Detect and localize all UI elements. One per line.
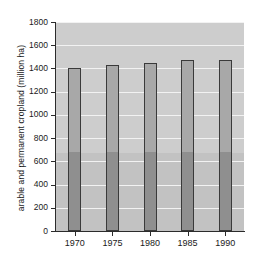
y-tick-mark [51, 208, 55, 209]
bar-lower-segment [182, 152, 193, 230]
plot-area [56, 22, 244, 231]
gridline [56, 45, 244, 46]
x-tick-label: 1980 [130, 238, 170, 248]
gridline [56, 22, 244, 23]
x-tick-label: 1990 [205, 238, 245, 248]
y-axis-title: arable and permanent cropland (million h… [14, 12, 28, 244]
bar [219, 60, 232, 231]
x-tick-mark [188, 232, 189, 236]
y-tick-mark [51, 22, 55, 23]
y-tick-label: 1000 [29, 110, 48, 119]
y-tick-mark [51, 231, 55, 232]
bar-lower-segment [220, 152, 231, 230]
y-tick-label: 1800 [29, 18, 48, 27]
x-tick-mark [112, 232, 113, 236]
y-tick-mark [51, 161, 55, 162]
x-tick-label: 1975 [92, 238, 132, 248]
y-tick-label: 0 [43, 227, 48, 236]
x-tick-label: 1970 [55, 238, 95, 248]
y-tick-mark [51, 68, 55, 69]
x-tick-label: 1985 [168, 238, 208, 248]
bar [144, 63, 157, 231]
y-tick-mark [51, 92, 55, 93]
y-tick-label: 600 [34, 157, 48, 166]
x-tick-mark [225, 232, 226, 236]
bar-lower-segment [69, 152, 80, 230]
y-tick-label: 1400 [29, 64, 48, 73]
y-tick-mark [51, 45, 55, 46]
y-tick-mark [51, 115, 55, 116]
x-tick-mark [75, 232, 76, 236]
bar-lower-segment [107, 152, 118, 230]
y-tick-label: 800 [34, 134, 48, 143]
y-tick-mark [51, 185, 55, 186]
bar [106, 65, 119, 231]
bar [68, 68, 81, 231]
chart-figure: arable and permanent cropland (million h… [0, 0, 259, 256]
y-tick-label: 200 [34, 203, 48, 212]
y-tick-label: 1200 [29, 87, 48, 96]
bar [181, 60, 194, 231]
y-tick-label: 400 [34, 180, 48, 189]
x-tick-mark [150, 232, 151, 236]
y-tick-label: 1600 [29, 41, 48, 50]
y-tick-mark [51, 138, 55, 139]
bar-lower-segment [145, 152, 156, 230]
